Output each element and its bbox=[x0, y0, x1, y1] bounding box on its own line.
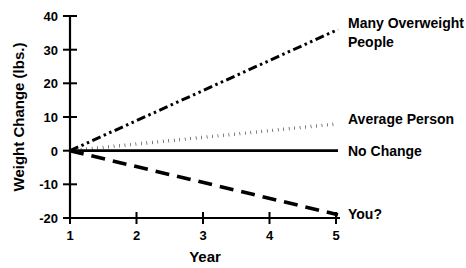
y-tick-label-0: 0 bbox=[51, 144, 58, 159]
x-tick-label-4: 4 bbox=[266, 228, 274, 243]
series-label-average-person: Average Person bbox=[348, 111, 454, 127]
series-label-many-overweight-people-line1: Many Overweight bbox=[348, 15, 464, 31]
series-label-many-overweight-people-line2: People bbox=[348, 34, 394, 50]
y-tick-label-30: 30 bbox=[44, 43, 58, 58]
x-tick-label-1: 1 bbox=[66, 228, 73, 243]
x-tick-label-2: 2 bbox=[133, 228, 140, 243]
chart-canvas: 40 30 20 10 0 -10 -20 1 2 3 4 5 Year Wei… bbox=[0, 0, 466, 268]
y-tick-label-20: 20 bbox=[44, 76, 58, 91]
weight-change-line-chart: 40 30 20 10 0 -10 -20 1 2 3 4 5 Year Wei… bbox=[0, 0, 466, 268]
x-tick-label-3: 3 bbox=[199, 228, 206, 243]
y-tick-label-40: 40 bbox=[44, 9, 58, 24]
series-label-no-change: No Change bbox=[348, 143, 422, 159]
y-axis-title: Weight Change (lbs.) bbox=[10, 43, 27, 192]
series-label-you: You? bbox=[348, 206, 382, 222]
x-axis-title: Year bbox=[189, 248, 221, 265]
x-tick-label-5: 5 bbox=[332, 228, 339, 243]
y-tick-label-minus10: -10 bbox=[39, 177, 58, 192]
y-tick-label-minus20: -20 bbox=[39, 211, 58, 226]
y-tick-label-10: 10 bbox=[44, 110, 58, 125]
